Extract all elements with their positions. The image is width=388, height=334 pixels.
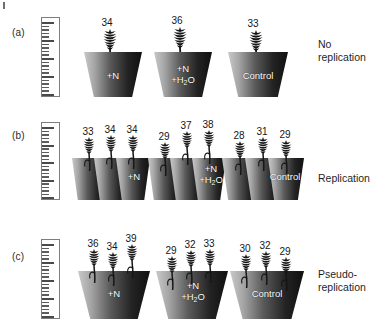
ruler-minor-tick xyxy=(42,287,49,289)
panel-b-caption: Replication xyxy=(318,172,370,185)
height-value-b-1-0: 29 xyxy=(154,131,174,142)
height-value-c-1-2: 33 xyxy=(199,238,219,249)
ruler-minor-tick xyxy=(42,309,49,311)
ruler-minor-tick xyxy=(42,62,49,64)
ruler-major-tick xyxy=(42,40,54,42)
ruler-minor-tick xyxy=(42,155,49,157)
height-value-c-2-2: 29 xyxy=(275,246,295,257)
height-value-a-0-0: 34 xyxy=(97,17,117,28)
ruler-minor-tick xyxy=(42,90,49,92)
plant-c-0-1 xyxy=(105,252,121,286)
panel-a-group-nitrogen-water: 36 +N+H2O xyxy=(148,17,214,97)
ruler-minor-tick xyxy=(42,47,49,49)
ruler-minor-tick xyxy=(42,152,49,154)
height-value-b-0-2: 34 xyxy=(122,124,142,135)
plant-b-1-2 xyxy=(201,130,217,164)
ruler-minor-tick xyxy=(42,276,49,278)
ruler-minor-tick xyxy=(42,251,49,253)
panel-c-group-control: Control 30 32 29 xyxy=(226,233,308,319)
panel-a: (a) 34 +N 36 +N+H2O 33 Control No replic… xyxy=(0,0,388,111)
panel-b-group-control: Control 28 31 29 xyxy=(222,120,304,200)
ruler-minor-tick xyxy=(42,148,49,150)
ruler-minor-tick xyxy=(42,269,49,271)
plant-c-2-2 xyxy=(278,257,294,291)
ruler-major-tick xyxy=(42,94,54,96)
panel-a-caption: No replication xyxy=(318,38,366,64)
ruler-minor-tick xyxy=(42,284,49,286)
figure-panel-replication-diagram: (a) 34 +N 36 +N+H2O 33 Control No replic… xyxy=(0,0,388,334)
ruler-major-tick xyxy=(42,127,54,129)
height-value-b-1-2: 38 xyxy=(198,119,218,130)
ruler-minor-tick xyxy=(42,65,49,67)
height-value-c-2-1: 32 xyxy=(255,240,275,251)
ruler-minor-tick xyxy=(42,312,49,314)
ruler-major-tick xyxy=(42,280,54,282)
ruler-minor-tick xyxy=(42,291,49,293)
ruler-minor-tick xyxy=(42,44,49,46)
plant-b-2-2 xyxy=(278,140,294,174)
ruler-minor-tick xyxy=(42,173,49,175)
plant-c-1-2 xyxy=(202,249,218,283)
ruler-major-tick xyxy=(42,76,54,78)
ruler-minor-tick xyxy=(42,141,49,143)
panel-b-group-nitrogen: +N 33 34 34 xyxy=(72,120,150,200)
panel-c-label: (c) xyxy=(12,251,24,262)
plant-b-1-1 xyxy=(179,131,195,165)
ruler-minor-tick xyxy=(42,305,49,307)
ruler-minor-tick xyxy=(42,131,49,133)
height-value-a-2-0: 33 xyxy=(243,18,263,29)
ruler-major-tick xyxy=(42,316,54,318)
measuring-scale-b xyxy=(41,122,60,200)
panel-b-label: (b) xyxy=(12,130,25,141)
ruler-minor-tick xyxy=(42,183,49,185)
panel-c-caption: Pseudo- replication xyxy=(318,268,366,294)
plant-b-0-1 xyxy=(103,135,119,169)
ruler-minor-tick xyxy=(42,29,49,31)
pot-a-0 xyxy=(84,52,142,97)
plant-c-0-0 xyxy=(86,249,102,283)
height-value-a-1-0: 36 xyxy=(167,15,187,26)
ruler-minor-tick xyxy=(42,294,49,296)
panel-a-label: (a) xyxy=(12,27,25,38)
ruler-minor-tick xyxy=(42,51,49,53)
ruler-minor-tick xyxy=(42,266,49,268)
ruler-minor-tick xyxy=(42,54,49,56)
ruler-minor-tick xyxy=(42,255,49,257)
height-value-c-2-0: 30 xyxy=(235,243,255,254)
height-value-b-2-0: 28 xyxy=(229,130,249,141)
plant-c-0-2 xyxy=(124,244,140,278)
ruler-minor-tick xyxy=(42,166,49,168)
ruler-minor-tick xyxy=(42,33,49,35)
height-value-c-1-0: 29 xyxy=(161,245,181,256)
ruler-minor-tick xyxy=(42,72,49,74)
height-value-c-0-1: 34 xyxy=(102,241,122,252)
panel-a-group-nitrogen: 34 +N xyxy=(78,17,144,97)
ruler-minor-tick xyxy=(42,69,49,71)
height-value-c-0-2: 39 xyxy=(121,233,141,244)
panel-b: (b) +N 33 34 34 +N+H2O 29 37 xyxy=(0,110,388,221)
plant-b-2-1 xyxy=(255,137,271,171)
plant-c-2-0 xyxy=(238,254,254,288)
ruler-minor-tick xyxy=(42,302,49,304)
ruler-major-tick xyxy=(42,58,54,60)
pot-b-1-2 xyxy=(192,158,226,200)
height-value-c-0-0: 36 xyxy=(83,238,103,249)
ruler-major-tick xyxy=(42,262,54,264)
ruler-major-tick xyxy=(42,197,54,199)
ruler-minor-tick xyxy=(42,194,49,196)
ruler-major-tick xyxy=(42,162,54,164)
ruler-minor-tick xyxy=(42,80,49,82)
ruler-minor-tick xyxy=(42,169,49,171)
ruler-minor-tick xyxy=(42,159,49,161)
height-value-c-1-1: 32 xyxy=(180,239,200,250)
measuring-scale-c xyxy=(41,239,60,319)
panel-a-group-control: 33 Control xyxy=(222,17,292,97)
ruler-major-tick xyxy=(42,180,54,182)
pot-a-1 xyxy=(154,52,212,97)
ruler-major-tick xyxy=(42,145,54,147)
ruler-minor-tick xyxy=(42,190,49,192)
measuring-scale-a xyxy=(41,17,60,97)
ruler-minor-tick xyxy=(42,258,49,260)
ruler-minor-tick xyxy=(42,176,49,178)
ruler-minor-tick xyxy=(42,138,49,140)
